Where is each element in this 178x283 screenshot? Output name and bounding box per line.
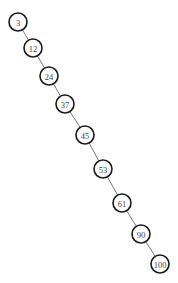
tree-edge [22,30,28,40]
tree-node: 61 [113,194,131,212]
tree-edge [37,56,44,68]
tree-node: 90 [132,225,150,243]
tree-node: 24 [40,67,58,85]
node-label: 12 [29,44,38,54]
node-label: 37 [61,100,70,110]
tree-node: 45 [76,126,94,144]
node-label: 100 [154,260,167,270]
tree-node: 37 [56,95,74,113]
tree-edge [146,242,155,257]
tree-edge [107,177,117,195]
node-label: 24 [45,72,54,82]
tree-edge [127,211,137,227]
tree-diagram: 312243745536190100 [0,0,178,283]
node-label: 61 [118,199,127,209]
node-label: 90 [137,230,146,240]
node-label: 3 [16,18,20,28]
tree-node: 100 [151,255,169,273]
tree-edge [53,84,60,96]
tree-node: 12 [24,39,42,57]
node-label: 53 [99,165,108,175]
tree-node: 53 [94,160,112,178]
tree-edge [89,143,99,161]
tree-edge [70,112,80,128]
tree-nodes: 312243745536190100 [9,13,169,273]
node-label: 45 [81,131,90,141]
tree-node: 3 [9,13,27,31]
